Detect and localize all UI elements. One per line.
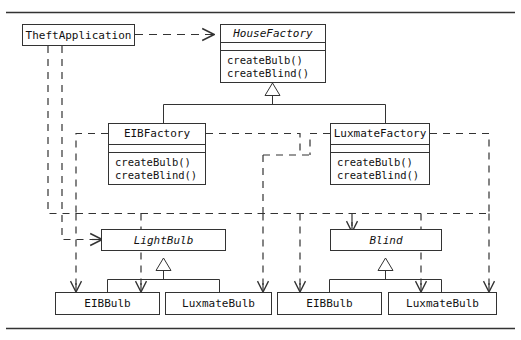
class-box-luxmate-factory[interactable]: LuxmateFactory createBulb() createBlind(… [330, 123, 430, 185]
class-box-eib-bulb-left[interactable]: EIBBulb [55, 292, 160, 315]
operation-create-bulb-luxmate-factory: createBulb() [337, 156, 429, 169]
attributes-compartment-eib-factory [109, 144, 205, 152]
class-box-theft-application[interactable]: TheftApplication [22, 24, 135, 46]
generalization-bulbs-to-lightbulb [108, 258, 220, 292]
class-name-luxmate-bulb-right: LuxmateBulb [389, 293, 496, 314]
class-name-eib-bulb-left: EIBBulb [56, 293, 159, 314]
operation-create-blind-house-factory: createBlind() [227, 67, 325, 80]
operations-compartment-house-factory: createBulb() createBlind() [221, 50, 325, 82]
operation-create-blind-luxmate-factory: createBlind() [337, 169, 429, 182]
class-name-theft-application: TheftApplication [23, 25, 134, 45]
class-box-luxmate-bulb-right[interactable]: LuxmateBulb [388, 292, 497, 315]
generalization-bulbs-to-blind [330, 258, 442, 292]
dependency-theftapplication-to-lightbulb [62, 46, 92, 240]
operation-create-blind-eib-factory: createBlind() [115, 169, 205, 182]
operations-compartment-luxmate-factory: createBulb() createBlind() [331, 152, 429, 184]
class-box-eib-factory[interactable]: EIBFactory createBulb() createBlind() [108, 123, 206, 185]
dependency-drop-arrowheads [76, 283, 489, 291]
class-box-light-bulb[interactable]: LightBulb [101, 229, 226, 251]
class-name-eib-bulb-right: EIBBulb [278, 293, 381, 314]
class-name-blind: Blind [331, 230, 441, 250]
operation-create-bulb-eib-factory: createBulb() [115, 156, 205, 169]
class-box-blind[interactable]: Blind [330, 229, 442, 251]
attributes-compartment-house-factory [221, 42, 325, 50]
operations-compartment-eib-factory: createBulb() createBlind() [109, 152, 205, 184]
class-name-luxmate-factory: LuxmateFactory [331, 124, 429, 144]
operation-create-bulb-house-factory: createBulb() [227, 54, 325, 67]
class-name-house-factory: HouseFactory [221, 25, 325, 42]
class-box-luxmate-bulb-left[interactable]: LuxmateBulb [165, 292, 272, 315]
attributes-compartment-luxmate-factory [331, 144, 429, 152]
class-box-eib-bulb-right[interactable]: EIBBulb [277, 292, 382, 315]
class-name-eib-factory: EIBFactory [109, 124, 205, 144]
class-name-light-bulb: LightBulb [102, 230, 225, 250]
uml-class-diagram-figure: TheftApplication HouseFactory createBulb… [0, 0, 521, 340]
class-name-luxmate-bulb-left: LuxmateBulb [166, 293, 271, 314]
generalization-factories-to-housefactory [164, 83, 386, 124]
class-box-house-factory[interactable]: HouseFactory createBulb() createBlind() [220, 24, 326, 83]
